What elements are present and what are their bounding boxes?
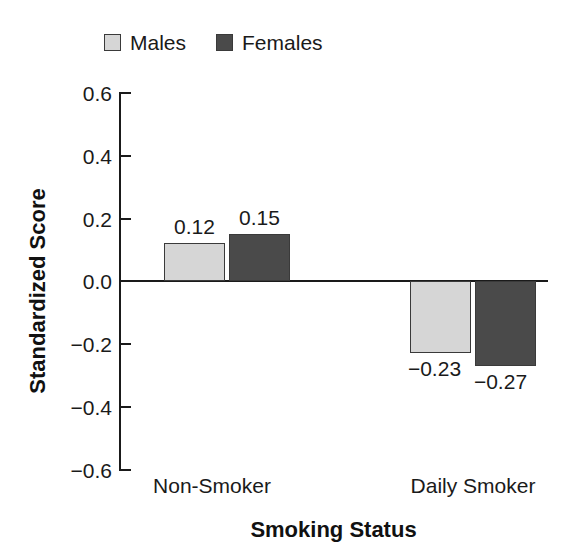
y-tick-label-0: 0.6 <box>46 83 112 104</box>
y-tick-label-6: −0.6 <box>46 460 112 481</box>
y-tick-label-4: −0.2 <box>46 334 112 355</box>
bar-chart-figure: Males Females 0.6 0.4 0.2 0.0 <box>0 0 588 552</box>
x-category-label-non-smoker: Non-Smoker <box>147 475 277 496</box>
x-category-label-daily-smoker: Daily Smoker <box>408 475 538 496</box>
bar-dailysmoker-females[interactable] <box>475 281 536 366</box>
y-tick-label-5: −0.4 <box>46 397 112 418</box>
y-tick-mark-6 <box>119 469 131 471</box>
y-tick-mark-4 <box>119 343 131 345</box>
bar-value-dailysmoker-males: −0.23 <box>404 358 465 379</box>
y-axis-line <box>119 93 121 471</box>
bar-nonsmoker-females[interactable] <box>229 234 290 281</box>
y-tick-mark-1 <box>119 155 131 157</box>
bar-value-nonsmoker-males: 0.12 <box>164 216 225 237</box>
x-axis-title: Smoking Status <box>119 519 548 541</box>
bar-dailysmoker-males[interactable] <box>410 281 471 353</box>
y-tick-mark-5 <box>119 406 131 408</box>
y-tick-label-3: 0.0 <box>46 271 112 292</box>
y-tick-mark-0 <box>119 92 131 94</box>
plot-area: 0.6 0.4 0.2 0.0 −0.2 −0.4 −0.6 0.12 0.15… <box>0 0 588 552</box>
y-tick-mark-2 <box>119 218 131 220</box>
bar-value-dailysmoker-females: −0.27 <box>470 371 531 392</box>
y-tick-label-2: 0.2 <box>46 209 112 230</box>
y-axis-title: Standardized Score <box>27 171 49 411</box>
y-tick-label-1: 0.4 <box>46 146 112 167</box>
bar-nonsmoker-males[interactable] <box>164 243 225 281</box>
bar-value-nonsmoker-females: 0.15 <box>229 207 290 228</box>
y-tick-mark-3 <box>119 280 131 282</box>
